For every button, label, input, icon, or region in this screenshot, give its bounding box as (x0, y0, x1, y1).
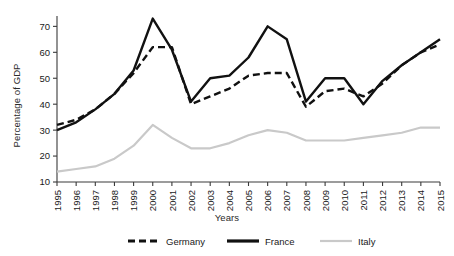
x-tick-label: 2008 (301, 190, 312, 211)
x-tick-label: 2011 (358, 190, 369, 210)
x-tick-label: 2001 (167, 190, 178, 211)
x-tick-label: 1996 (71, 190, 82, 211)
plot-area: 10203040506070 1995199619971998199920002… (0, 0, 454, 256)
x-tick-label: 2007 (281, 190, 292, 211)
y-tick-label: 40 (39, 99, 50, 110)
chart-legend: GermanyFranceItaly (128, 236, 376, 247)
x-tick-label: 1998 (109, 190, 120, 211)
x-tick-label: 2006 (262, 190, 273, 211)
x-tick-label: 1995 (52, 190, 63, 211)
series-line-france (57, 19, 440, 131)
x-tick-label: 2004 (224, 190, 235, 211)
y-tick-label: 70 (39, 21, 50, 32)
x-tick-label: 2005 (243, 190, 254, 211)
series-line-italy (57, 125, 440, 172)
legend-label-france: France (265, 236, 295, 247)
x-tick-label: 2010 (339, 190, 350, 211)
y-tick-label: 20 (39, 150, 50, 161)
legend-label-italy: Italy (358, 236, 376, 247)
x-tick-label: 2002 (186, 190, 197, 211)
x-tick-label: 2000 (147, 190, 158, 211)
y-tick-label: 60 (39, 47, 50, 58)
x-tick-label: 1999 (128, 190, 139, 211)
x-tick-label: 1997 (90, 190, 101, 211)
y-tick-label: 10 (39, 176, 50, 187)
x-tick-label: 2014 (415, 190, 426, 211)
y-tick-label: 30 (39, 125, 50, 136)
x-tick-label: 2009 (320, 190, 331, 211)
x-tick-label: 2015 (435, 190, 446, 211)
y-tick-label: 50 (39, 73, 50, 84)
x-tick-label: 2012 (377, 190, 388, 211)
x-axis-ticks: 1995199619971998199920002001200220032004… (52, 182, 446, 211)
legend-label-germany: Germany (166, 236, 205, 247)
data-series-group (57, 19, 440, 172)
y-axis-ticks: 10203040506070 (39, 21, 57, 188)
x-tick-label: 2003 (205, 190, 216, 211)
x-tick-label: 2013 (396, 190, 407, 211)
gdp-line-chart: Percentage of GDP Years 10203040506070 1… (0, 0, 454, 256)
